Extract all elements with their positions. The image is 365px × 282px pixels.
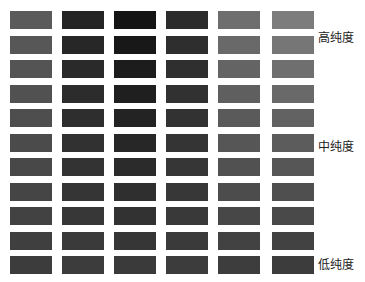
label-low-purity: 低纯度: [318, 258, 354, 272]
swatch-r1-c4: [166, 11, 208, 29]
swatch-r10-c1: [10, 232, 52, 250]
swatch-r5-c1: [10, 109, 52, 127]
swatch-r3-c5: [218, 60, 260, 78]
swatch-r3-c1: [10, 60, 52, 78]
swatch-r8-c5: [218, 183, 260, 201]
purity-swatch-grid: [0, 0, 365, 282]
swatch-r9-c5: [218, 207, 260, 225]
swatch-r2-c3: [114, 36, 156, 54]
swatch-r11-c6: [272, 256, 314, 274]
swatch-r10-c5: [218, 232, 260, 250]
swatch-r7-c6: [272, 158, 314, 176]
swatch-r4-c1: [10, 85, 52, 103]
swatch-r11-c5: [218, 256, 260, 274]
label-medium-purity: 中纯度: [318, 140, 354, 154]
swatch-r6-c1: [10, 134, 52, 152]
swatch-r8-c6: [272, 183, 314, 201]
swatch-r4-c3: [114, 85, 156, 103]
swatch-r6-c6: [272, 134, 314, 152]
swatch-r6-c2: [62, 134, 104, 152]
swatch-r3-c2: [62, 60, 104, 78]
swatch-r2-c2: [62, 36, 104, 54]
swatch-r2-c4: [166, 36, 208, 54]
swatch-r10-c2: [62, 232, 104, 250]
swatch-r3-c3: [114, 60, 156, 78]
swatch-r9-c2: [62, 207, 104, 225]
swatch-r6-c4: [166, 134, 208, 152]
swatch-r8-c2: [62, 183, 104, 201]
swatch-r3-c6: [272, 60, 314, 78]
swatch-r10-c3: [114, 232, 156, 250]
swatch-r7-c3: [114, 158, 156, 176]
swatch-r1-c3: [114, 11, 156, 29]
swatch-r7-c4: [166, 158, 208, 176]
swatch-r1-c5: [218, 11, 260, 29]
swatch-r2-c5: [218, 36, 260, 54]
swatch-r4-c4: [166, 85, 208, 103]
label-high-purity: 高纯度: [318, 31, 354, 45]
swatch-r4-c6: [272, 85, 314, 103]
swatch-r1-c2: [62, 11, 104, 29]
swatch-r1-c1: [10, 11, 52, 29]
swatch-r11-c2: [62, 256, 104, 274]
swatch-r9-c3: [114, 207, 156, 225]
swatch-r11-c1: [10, 256, 52, 274]
swatch-r7-c1: [10, 158, 52, 176]
swatch-r6-c5: [218, 134, 260, 152]
swatch-r5-c6: [272, 109, 314, 127]
swatch-r11-c3: [114, 256, 156, 274]
swatch-r4-c5: [218, 85, 260, 103]
swatch-r8-c3: [114, 183, 156, 201]
swatch-r3-c4: [166, 60, 208, 78]
swatch-r1-c6: [272, 11, 314, 29]
swatch-r5-c4: [166, 109, 208, 127]
swatch-r10-c6: [272, 232, 314, 250]
swatch-r2-c1: [10, 36, 52, 54]
swatch-r11-c4: [166, 256, 208, 274]
swatch-r9-c4: [166, 207, 208, 225]
swatch-r2-c6: [272, 36, 314, 54]
swatch-r5-c3: [114, 109, 156, 127]
swatch-r7-c5: [218, 158, 260, 176]
swatch-r10-c4: [166, 232, 208, 250]
swatch-r8-c4: [166, 183, 208, 201]
swatch-r8-c1: [10, 183, 52, 201]
swatch-r4-c2: [62, 85, 104, 103]
swatch-r6-c3: [114, 134, 156, 152]
swatch-r7-c2: [62, 158, 104, 176]
swatch-r9-c1: [10, 207, 52, 225]
swatch-r5-c2: [62, 109, 104, 127]
swatch-r9-c6: [272, 207, 314, 225]
swatch-r5-c5: [218, 109, 260, 127]
